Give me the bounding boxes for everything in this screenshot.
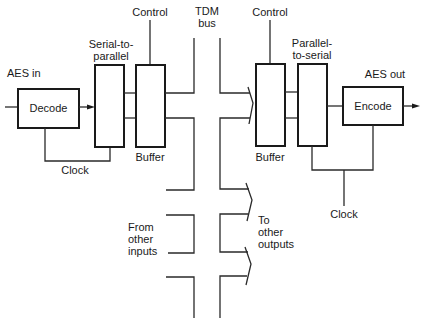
tdm-router-diagram: AES in Decode Clock Serial-to- parallel … [0,0,424,324]
serial-to-parallel-label-1: Serial-to- [89,38,134,50]
bus-left-segment-3 [166,215,194,253]
from-other-inputs-label-1: From [128,221,154,233]
decode-label: Decode [30,102,68,114]
buffer-right-label: Buffer [255,151,284,163]
arrow-right-icon [87,105,95,110]
from-other-inputs-label-2: other [128,233,153,245]
encode-block: Encode [343,87,403,125]
decode-block: Decode [18,89,79,128]
control-right-label: Control [252,6,287,18]
clock-right-label: Clock [330,208,358,220]
bus-right-segment-4 [220,276,247,318]
tdm-bus-label-1: TDM [195,5,219,17]
from-other-inputs-label-3: inputs [128,245,158,257]
buffer-left-label: Buffer [135,151,164,163]
aes-in-label: AES in [7,67,41,79]
tdm-bus-label-2: bus [198,17,216,29]
bus-right-segment-1 [220,38,250,93]
parallel-to-serial-label-1: Parallel- [292,37,333,49]
to-other-outputs-label-1: To [258,214,270,226]
to-other-outputs-label-2: other [258,226,283,238]
bus-left-segment-4 [166,277,194,318]
buffer-right-box [256,64,285,146]
control-left-label: Control [132,6,167,18]
bus-right-segment-2 [220,118,250,189]
bus-right-segment-3 [220,214,248,252]
serial-to-parallel-box [95,65,124,147]
serial-to-parallel-label-2: parallel [93,50,128,62]
parallel-to-serial-box [298,64,327,146]
bus-left-segment-2 [165,118,194,190]
bus-left-segment-1 [165,38,194,93]
clock-left-label: Clock [61,164,89,176]
arrow-right-icon [412,104,420,109]
to-other-outputs-label-3: outputs [258,238,295,250]
buffer-left-box [136,65,165,147]
encode-label: Encode [354,100,391,112]
aes-out-label: AES out [365,68,405,80]
parallel-to-serial-label-2: to-serial [292,49,331,61]
bus-tap-chevron-3 [245,247,251,285]
